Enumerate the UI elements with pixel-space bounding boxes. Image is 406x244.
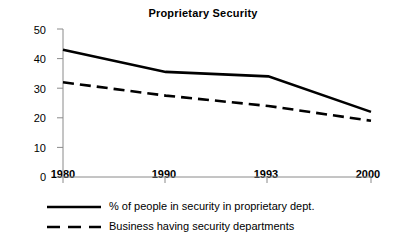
y-axis-ticks bbox=[57, 29, 63, 177]
chart-figure: Proprietary Security Percent 50 40 30 20… bbox=[0, 0, 406, 244]
series-line-proprietary-dept bbox=[63, 50, 371, 112]
legend-label-0: % of people in security in proprietary d… bbox=[109, 200, 314, 212]
legend-sample-solid bbox=[45, 199, 103, 215]
series-line-business-security-departments bbox=[63, 82, 371, 120]
x-axis-ticks bbox=[63, 177, 371, 183]
legend-sample-dashed bbox=[45, 219, 103, 235]
legend-label-1: Business having security departments bbox=[109, 220, 294, 232]
